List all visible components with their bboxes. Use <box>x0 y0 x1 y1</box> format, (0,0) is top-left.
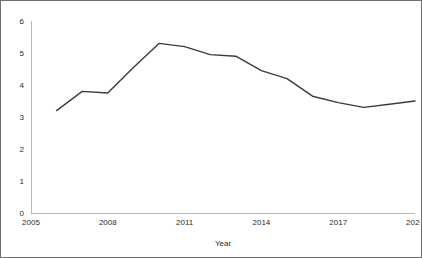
chart-figure: 0123456 200520082011201420172020 Year <box>0 0 422 258</box>
x-axis-tick-labels: 200520082011201420172020 <box>22 218 420 227</box>
y-tick-label: 4 <box>20 81 25 90</box>
x-tick-label: 2008 <box>99 218 117 227</box>
y-tick-label: 0 <box>20 209 25 218</box>
x-tick-label: 2005 <box>22 218 40 227</box>
axis-lines <box>31 21 415 213</box>
y-tick-label: 6 <box>20 17 25 26</box>
x-tick-label: 2014 <box>253 218 271 227</box>
x-tick-label: 2011 <box>176 218 194 227</box>
x-tick-label: 2020 <box>406 218 420 227</box>
y-tick-label: 3 <box>20 113 25 122</box>
y-tick-label: 5 <box>20 49 25 58</box>
data-series-line <box>57 43 415 110</box>
x-tick-label: 2017 <box>329 218 347 227</box>
chart-plot-container: 0123456 200520082011201420172020 Year <box>4 4 418 254</box>
x-axis-title: Year <box>215 239 232 248</box>
line-chart: 0123456 200520082011201420172020 Year <box>4 4 420 256</box>
y-axis-tick-labels: 0123456 <box>20 17 25 218</box>
y-tick-label: 2 <box>20 145 25 154</box>
y-tick-label: 1 <box>20 177 25 186</box>
